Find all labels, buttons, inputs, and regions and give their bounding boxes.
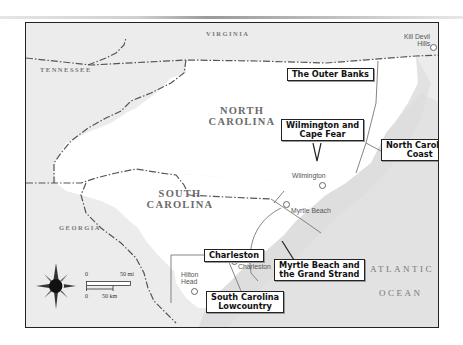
- region-wilmington-cape-fear[interactable]: Wilmington and Cape Fear: [281, 119, 364, 141]
- map-frame: VIRGINIA TENNESSEE NORTHCAROLINA SOUTHCA…: [25, 22, 439, 328]
- scale-km-zero: 0: [85, 293, 88, 299]
- label-virginia: VIRGINIA: [206, 31, 249, 38]
- town-marker-wilmington[interactable]: [319, 182, 326, 189]
- region-myrtle-line2: the Grand Strand: [279, 270, 360, 279]
- town-kill-devil-hills-line2: Hills: [404, 40, 430, 47]
- callout-pointer-wilmington: [312, 143, 324, 165]
- region-north-carolina-coast[interactable]: North Carolina Coast: [381, 139, 439, 161]
- label-north-carolina: NORTHCAROLINA: [202, 105, 282, 127]
- region-charleston[interactable]: Charleston: [204, 249, 264, 262]
- compass-rose-icon: [36, 263, 76, 309]
- scale-bar: [86, 281, 132, 293]
- scale-mi-label: 50 mi: [120, 271, 134, 277]
- region-lowcountry-line2: Lowcountry: [211, 302, 279, 311]
- town-hilton-head-line2: Head: [181, 278, 198, 285]
- town-kill-devil-hills[interactable]: Kill Devil Hills: [404, 33, 430, 47]
- scale-km-label: 50 km: [102, 293, 117, 299]
- callout-pointer-myrtle: [280, 241, 296, 261]
- town-myrtle-beach[interactable]: Myrtle Beach: [291, 207, 331, 214]
- label-atlantic: ATLANTIC: [370, 264, 434, 274]
- region-outer-banks[interactable]: The Outer Banks: [287, 68, 374, 81]
- town-charleston[interactable]: Charleston: [238, 263, 271, 270]
- town-marker-hilton-head[interactable]: [191, 288, 198, 295]
- town-marker-myrtle-beach[interactable]: [283, 201, 290, 208]
- region-south-carolina-lowcountry[interactable]: South Carolina Lowcountry: [206, 291, 284, 313]
- label-north-carolina-text: NORTHCAROLINA: [209, 105, 276, 127]
- scale-mi-zero: 0: [85, 271, 88, 277]
- town-hilton-head-line1: Hilton: [181, 271, 198, 278]
- town-wilmington[interactable]: Wilmington: [292, 172, 326, 179]
- label-south-carolina-text: SOUTHCAROLINA: [147, 188, 214, 210]
- region-wilmington-line2: Cape Fear: [286, 130, 359, 139]
- town-kill-devil-hills-line1: Kill Devil: [404, 33, 430, 40]
- town-hilton-head[interactable]: Hilton Head: [181, 271, 198, 285]
- town-marker-kill-devil-hills[interactable]: [430, 44, 437, 51]
- label-south-carolina: SOUTHCAROLINA: [140, 188, 220, 210]
- region-nc-coast-line2: Coast: [386, 150, 439, 159]
- region-myrtle-beach-grand-strand[interactable]: Myrtle Beach and the Grand Strand: [274, 259, 365, 281]
- label-georgia: GEORGIA: [59, 225, 101, 232]
- label-tennessee: TENNESSEE: [40, 67, 92, 74]
- top-divider: [0, 16, 463, 19]
- label-ocean: OCEAN: [379, 288, 423, 298]
